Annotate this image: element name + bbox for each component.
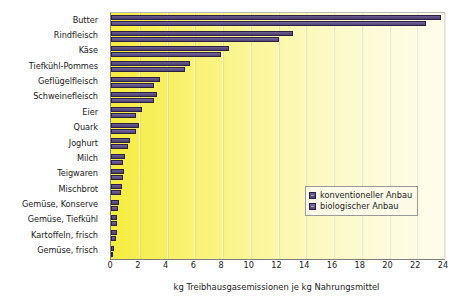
bar-group [111,136,444,151]
x-tick-label: 12 [271,261,281,269]
bar-conventional [111,200,119,205]
bar-conventional [111,169,124,174]
bar-conventional [111,107,142,112]
bar-organic [111,37,279,42]
x-tick-label: 16 [327,261,337,269]
category-label: Rindfleisch [0,27,104,42]
bar-organic [111,206,118,211]
x-tick-label: 4 [163,261,168,269]
x-tick-label: 20 [382,261,392,269]
category-label: Teigwaren [0,166,104,181]
legend-item-organic[interactable]: biologischer Anbau [309,201,412,212]
bar-group [111,121,444,136]
bar-organic [111,113,136,118]
category-label: Geflügelfleisch [0,74,104,89]
bar-group [111,228,444,243]
x-tick-label: 0 [107,261,112,269]
bar-conventional [111,15,441,20]
bar-group [111,75,444,90]
bar-conventional [111,61,190,66]
bar-group [111,167,444,182]
value-axis: 024681012141618202224 [110,261,443,275]
bar-conventional [111,123,139,128]
bar-group [111,44,444,59]
bar-group [111,90,444,105]
bars-layer [111,13,444,259]
gridline [444,13,445,259]
greenhouse-gas-emissions-bar-chart: ButterRindfleischKäseTiefkühl-PommesGefl… [0,0,460,306]
bar-group [111,59,444,74]
bar-organic [111,67,185,72]
category-axis: ButterRindfleischKäseTiefkühl-PommesGefl… [0,12,104,258]
bar-organic [111,144,128,149]
bar-group [111,151,444,166]
x-axis-title: kg Treibhausgasemissionen je kg Nahrungs… [110,282,443,292]
legend-swatch-icon-conventional [309,192,316,199]
bar-organic [111,83,154,88]
bar-organic [111,190,121,195]
category-label: Tiefkühl-Pommes [0,58,104,73]
legend-label-organic: biologischer Anbau [320,202,398,210]
category-label: Mischbrot [0,181,104,196]
category-label: Kartoffeln, frisch [0,227,104,242]
bar-organic [111,236,116,241]
bar-group [111,244,444,259]
bar-organic [111,129,136,134]
x-tick-label: 24 [438,261,448,269]
category-label: Eier [0,104,104,119]
bar-conventional [111,215,117,220]
x-tick-label: 22 [410,261,420,269]
legend-swatch-icon-organic [309,203,316,210]
bar-conventional [111,46,229,51]
category-label: Butter [0,12,104,27]
category-label: Schweinefleisch [0,89,104,104]
bar-organic [111,52,221,57]
category-label: Gemüse, Tiefkühl [0,212,104,227]
x-tick-label: 6 [191,261,196,269]
bar-organic [111,98,154,103]
bar-organic [111,160,123,165]
bar-conventional [111,31,293,36]
bar-organic [111,221,117,226]
bar-conventional [111,154,125,159]
category-label: Gemüse, frisch [0,243,104,258]
bar-organic [111,175,123,180]
bar-group [111,13,444,28]
legend-item-conventional[interactable]: konventioneller Anbau [309,190,412,201]
bar-group [111,105,444,120]
x-tick-label: 10 [244,261,254,269]
plot-area [110,12,445,260]
category-label: Joghurt [0,135,104,150]
bar-conventional [111,77,160,82]
x-tick-label: 18 [355,261,365,269]
category-label: Milch [0,150,104,165]
bar-organic [111,252,113,257]
category-label: Gemüse, Konserve [0,197,104,212]
bar-conventional [111,138,130,143]
bar-group [111,28,444,43]
bar-conventional [111,230,117,235]
x-tick-label: 8 [218,261,223,269]
x-tick-label: 2 [135,261,140,269]
x-tick-label: 14 [299,261,309,269]
bar-organic [111,21,426,26]
category-label: Käse [0,43,104,58]
bar-conventional [111,246,114,251]
legend-label-conventional: konventioneller Anbau [320,191,412,199]
category-label: Quark [0,120,104,135]
chart-legend: konventioneller Anbau biologischer Anbau [305,186,418,216]
bar-conventional [111,184,122,189]
bar-conventional [111,92,157,97]
